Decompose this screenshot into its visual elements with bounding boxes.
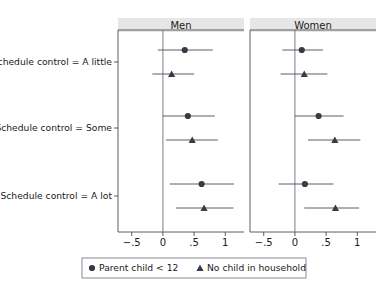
y-axis-category-label: Schedule control = A little: [0, 56, 112, 67]
x-axis-tick-label: 0: [292, 237, 298, 248]
estimate-row: [152, 70, 194, 77]
x-axis-tick-label: .5: [321, 237, 331, 248]
point-marker-circle: [316, 113, 322, 119]
estimate-row: [176, 204, 233, 211]
point-marker-circle: [299, 47, 305, 53]
legend-label: Parent child < 12: [99, 262, 178, 273]
panel-women: [250, 30, 376, 232]
estimate-row: [304, 204, 359, 211]
estimate-row: [308, 136, 360, 143]
estimate-row: [158, 47, 213, 53]
x-axis-tick-label: .5: [189, 237, 199, 248]
x-axis-group: −.50.51−.50.51: [123, 232, 361, 248]
estimate-row: [163, 113, 215, 119]
legend-item: Parent child < 12: [89, 262, 178, 273]
x-axis-tick-label: 1: [354, 237, 360, 248]
chart-legend: Parent child < 12No child in household: [82, 258, 306, 278]
y-axis-label-group: Schedule control = A littleSchedule cont…: [0, 56, 118, 201]
panel-title-men: Men: [170, 20, 191, 31]
y-axis-category-label: Schedule control = A lot: [0, 190, 112, 201]
point-marker-circle: [302, 181, 308, 187]
x-axis-tick-label: −.5: [123, 237, 141, 248]
x-axis-tick-label: −.5: [255, 237, 273, 248]
x-axis-tick-label: 1: [222, 237, 228, 248]
coefficient-plot: MenWomen −.50.51−.50.51 Schedule control…: [0, 0, 388, 288]
estimate-row: [295, 113, 344, 119]
legend-label: No child in household: [207, 262, 306, 273]
panel-title-women: Women: [294, 20, 332, 31]
estimate-row: [166, 136, 218, 143]
legend-item: No child in household: [196, 262, 306, 273]
estimate-row: [170, 181, 234, 187]
legend-marker-circle: [89, 265, 95, 271]
panel-group: [118, 30, 376, 232]
point-marker-circle: [182, 47, 188, 53]
point-marker-circle: [185, 113, 191, 119]
point-marker-circle: [198, 181, 204, 187]
estimate-row: [282, 47, 323, 53]
panel-men: [118, 30, 244, 232]
estimate-row: [281, 70, 328, 77]
y-axis-category-label: Schedule control = Some: [0, 122, 112, 133]
estimate-row: [279, 181, 334, 187]
x-axis-tick-label: 0: [160, 237, 166, 248]
legend-marker-triangle: [196, 264, 203, 271]
